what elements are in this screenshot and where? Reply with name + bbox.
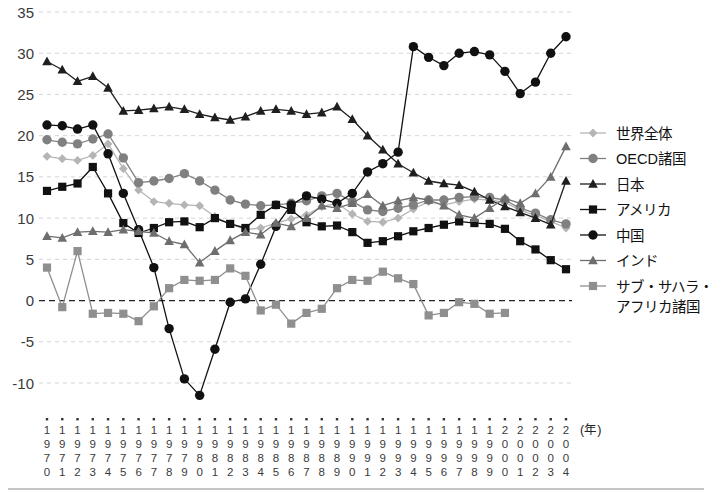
x-axis-year-digit: 9 bbox=[410, 438, 416, 450]
data-point-circle bbox=[88, 120, 97, 129]
x-axis-year-digit: 8 bbox=[196, 452, 202, 464]
series-line bbox=[47, 251, 505, 324]
x-axis-year-digit: 9 bbox=[441, 452, 447, 464]
data-point-square bbox=[516, 237, 524, 245]
legend-item-1[interactable]: OECD諸国 bbox=[580, 151, 686, 167]
data-point-circle bbox=[195, 391, 204, 400]
x-axis-year-digit: 9 bbox=[349, 438, 355, 450]
x-axis-year-digit: 7 bbox=[181, 452, 187, 464]
x-axis-year-digit: 5 bbox=[120, 466, 126, 478]
x-axis-year-digit: 7 bbox=[120, 452, 126, 464]
data-point-square bbox=[73, 247, 81, 255]
y-axis-tick-label: 5 bbox=[26, 251, 34, 268]
data-point-triangle bbox=[42, 231, 52, 240]
x-axis-year-digit: 4 bbox=[258, 466, 265, 478]
data-point-square bbox=[501, 309, 509, 317]
legend-item-4[interactable]: 中国 bbox=[580, 228, 644, 244]
data-point-circle bbox=[58, 138, 67, 147]
x-axis-year-digit: 9 bbox=[364, 452, 370, 464]
x-axis-year-digit: 0 bbox=[517, 438, 523, 450]
data-point-circle bbox=[210, 185, 219, 194]
data-point-circle bbox=[588, 154, 597, 163]
y-axis-tick-label: 25 bbox=[17, 86, 34, 103]
x-axis-year-digit: 1 bbox=[135, 424, 141, 436]
data-point-square bbox=[211, 276, 219, 284]
legend-item-2[interactable]: 日本 bbox=[580, 177, 644, 193]
x-axis-year-digit: 1 bbox=[364, 466, 370, 478]
data-point-square bbox=[58, 183, 66, 191]
legend-label: 世界全体 bbox=[616, 125, 673, 142]
data-point-triangle bbox=[164, 102, 174, 111]
data-point-square bbox=[196, 223, 204, 231]
data-point-circle bbox=[393, 147, 402, 156]
x-axis-year-digit: 8 bbox=[166, 466, 172, 478]
x-axis-year-digit: 8 bbox=[319, 466, 325, 478]
x-axis-year-digit: 9 bbox=[227, 438, 233, 450]
data-point-triangle bbox=[470, 187, 480, 196]
data-point-circle bbox=[454, 49, 463, 58]
x-axis-year-digit: 2 bbox=[227, 466, 233, 478]
x-axis-year-digit: 1 bbox=[288, 424, 294, 436]
x-axis-year-digit: 2 bbox=[532, 466, 538, 478]
x-axis-tick-dot bbox=[534, 418, 536, 420]
legend-item-5[interactable]: インド bbox=[580, 253, 658, 269]
data-point-square bbox=[589, 205, 597, 213]
y-axis-tick-label: 30 bbox=[17, 45, 34, 62]
data-point-diamond bbox=[43, 152, 52, 161]
data-point-square bbox=[455, 298, 463, 306]
x-axis-year-digit: 9 bbox=[59, 438, 65, 450]
x-axis-year-digit: 3 bbox=[90, 466, 96, 478]
x-axis-tick-dot bbox=[504, 418, 506, 420]
x-axis-tick-dot bbox=[107, 418, 109, 420]
x-axis-year-digit: 9 bbox=[425, 438, 431, 450]
legend-item-0[interactable]: 世界全体 bbox=[580, 125, 673, 142]
legend-item-6[interactable]: サブ・サハラ・アフリカ諸国 bbox=[580, 278, 712, 315]
x-axis-unit-label: (年) bbox=[580, 423, 601, 437]
x-axis-tick-dot bbox=[137, 418, 139, 420]
data-point-circle bbox=[180, 169, 189, 178]
x-axis-year-digit: 2 bbox=[563, 424, 569, 436]
x-axis-year-digit: 1 bbox=[380, 424, 386, 436]
data-point-circle bbox=[348, 189, 357, 198]
data-point-circle bbox=[409, 42, 418, 51]
legend-item-3[interactable]: アメリカ bbox=[580, 202, 671, 218]
data-point-circle bbox=[454, 193, 463, 202]
data-point-circle bbox=[363, 167, 372, 176]
x-axis-year-digit: 0 bbox=[349, 466, 355, 478]
data-point-circle bbox=[119, 189, 128, 198]
data-point-square bbox=[226, 264, 234, 272]
x-axis-year-digit: 7 bbox=[59, 452, 65, 464]
data-point-circle bbox=[393, 204, 402, 213]
x-axis-year-digit: 0 bbox=[44, 466, 50, 478]
data-point-triangle bbox=[332, 102, 342, 111]
x-axis-year-digit: 2 bbox=[502, 424, 508, 436]
data-point-square bbox=[501, 225, 509, 233]
x-axis-year-digit: 1 bbox=[212, 466, 218, 478]
data-point-circle bbox=[73, 139, 82, 148]
data-point-circle bbox=[241, 199, 250, 208]
x-axis-year-digit: 7 bbox=[166, 452, 172, 464]
data-point-triangle bbox=[103, 83, 113, 92]
x-axis-tick-dot bbox=[275, 418, 277, 420]
data-point-square bbox=[196, 277, 204, 285]
x-axis-tick-dot bbox=[488, 418, 490, 420]
x-axis-year-digit: 9 bbox=[90, 438, 96, 450]
x-axis-year-digit: 1 bbox=[120, 424, 126, 436]
data-point-square bbox=[119, 310, 127, 318]
data-point-square bbox=[43, 263, 51, 271]
chart-container: 35302520151050-5-10197019711972197319741… bbox=[0, 0, 712, 496]
x-axis-year-digit: 7 bbox=[74, 452, 80, 464]
data-point-circle bbox=[500, 67, 509, 76]
data-point-diamond bbox=[73, 156, 82, 165]
x-axis-year-digit: 1 bbox=[364, 424, 370, 436]
x-axis-year-digit: 9 bbox=[456, 438, 462, 450]
x-axis-year-digit: 9 bbox=[44, 438, 50, 450]
data-point-circle bbox=[378, 159, 387, 168]
data-point-square bbox=[409, 227, 417, 235]
data-point-circle bbox=[210, 344, 219, 353]
x-axis-tick-dot bbox=[290, 418, 292, 420]
x-axis-year-digit: 9 bbox=[273, 438, 279, 450]
x-axis-year-digit: 9 bbox=[380, 438, 386, 450]
data-point-circle bbox=[256, 260, 265, 269]
x-axis-year-digit: 9 bbox=[410, 452, 416, 464]
